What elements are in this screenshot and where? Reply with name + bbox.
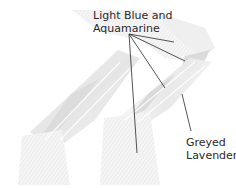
label-line: Aquamarine [93, 22, 172, 35]
label-light-blue-aquamarine: Light Blue and Aquamarine [93, 9, 172, 35]
label-line: Greyed [186, 136, 236, 149]
label-greyed-lavender: Greyed Lavender [186, 136, 236, 162]
leader-line-side [182, 94, 191, 131]
label-line: Light Blue and [93, 9, 172, 22]
label-line: Lavender [186, 149, 236, 162]
ribbon-illustration: Light Blue and Aquamarine Greyed Lavende… [0, 0, 236, 188]
